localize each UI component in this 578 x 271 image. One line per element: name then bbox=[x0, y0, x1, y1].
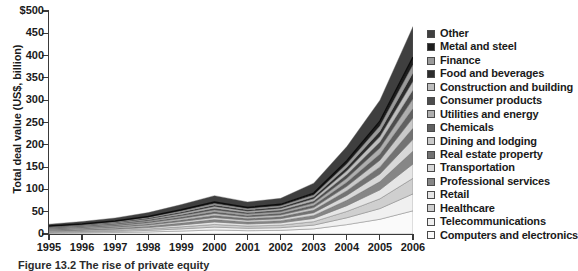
legend-swatch-icon bbox=[427, 110, 435, 118]
legend-item-label: Healthcare bbox=[440, 202, 495, 215]
legend-swatch-icon bbox=[427, 191, 435, 199]
x-tick-mark bbox=[313, 234, 314, 240]
legend-item[interactable]: Dining and lodging bbox=[427, 135, 577, 148]
legend-swatch-icon bbox=[427, 97, 435, 105]
x-tick-mark bbox=[148, 234, 149, 240]
legend-item-label: Telecommunications bbox=[440, 215, 546, 228]
y-tick-label: 50 bbox=[0, 205, 44, 217]
legend-item-label: Transportation bbox=[440, 161, 515, 174]
x-tick-mark bbox=[280, 234, 281, 240]
legend-item-label: Construction and building bbox=[440, 81, 573, 94]
legend-item[interactable]: Retail bbox=[427, 188, 577, 201]
legend-item-label: Finance bbox=[440, 54, 481, 67]
legend-item-label: Metal and steel bbox=[440, 40, 517, 53]
legend-item[interactable]: Metal and steel bbox=[427, 40, 577, 53]
y-tick-label: 0 bbox=[0, 227, 44, 239]
legend-item-label: Real estate property bbox=[440, 148, 543, 161]
legend-item-label: Computers and electronics bbox=[440, 229, 578, 242]
x-tick-label: 2006 bbox=[391, 241, 435, 253]
legend-item[interactable]: Real estate property bbox=[427, 148, 577, 161]
legend-item[interactable]: Other bbox=[427, 27, 577, 40]
legend-item-label: Utilities and energy bbox=[440, 108, 538, 121]
legend-item[interactable]: Consumer products bbox=[427, 94, 577, 107]
legend-swatch-icon bbox=[427, 218, 435, 226]
x-tick-mark bbox=[181, 234, 182, 240]
legend-item[interactable]: Telecommunications bbox=[427, 215, 577, 228]
legend-swatch-icon bbox=[427, 70, 435, 78]
legend-item[interactable]: Computers and electronics bbox=[427, 229, 577, 242]
legend-swatch-icon bbox=[427, 204, 435, 212]
legend-item[interactable]: Professional services bbox=[427, 175, 577, 188]
x-tick-mark bbox=[379, 234, 380, 240]
legend-item-label: Retail bbox=[440, 188, 469, 201]
y-tick-label: 300 bbox=[0, 93, 44, 105]
legend-item[interactable]: Utilities and energy bbox=[427, 108, 577, 121]
x-tick-mark bbox=[214, 234, 215, 240]
plot-area bbox=[49, 11, 413, 234]
legend-item[interactable]: Finance bbox=[427, 54, 577, 67]
legend-swatch-icon bbox=[427, 83, 435, 91]
y-tick-label: 100 bbox=[0, 182, 44, 194]
legend-swatch-icon bbox=[427, 30, 435, 38]
y-tick-label: 350 bbox=[0, 71, 44, 83]
x-tick-mark bbox=[81, 234, 82, 240]
legend-swatch-icon bbox=[427, 231, 435, 239]
y-tick-label: 450 bbox=[0, 26, 44, 38]
legend-item[interactable]: Food and beverages bbox=[427, 67, 577, 80]
legend-item-label: Consumer products bbox=[440, 94, 542, 107]
y-tick-label: $500 bbox=[0, 4, 44, 16]
y-tick-label: 200 bbox=[0, 138, 44, 150]
legend-item-label: Chemicals bbox=[440, 121, 494, 134]
legend-item-label: Dining and lodging bbox=[440, 135, 537, 148]
stacked-area-series bbox=[49, 11, 413, 234]
y-tick-label: 400 bbox=[0, 49, 44, 61]
legend-swatch-icon bbox=[427, 43, 435, 51]
x-tick-mark bbox=[48, 234, 49, 240]
legend: OtherMetal and steelFinanceFood and beve… bbox=[427, 27, 577, 242]
legend-swatch-icon bbox=[427, 137, 435, 145]
legend-item-label: Other bbox=[440, 27, 469, 40]
y-tick-label: 150 bbox=[0, 160, 44, 172]
legend-swatch-icon bbox=[427, 57, 435, 65]
legend-item-label: Food and beverages bbox=[440, 67, 544, 80]
legend-item-label: Professional services bbox=[440, 175, 550, 188]
legend-swatch-icon bbox=[427, 151, 435, 159]
legend-item[interactable]: Transportation bbox=[427, 161, 577, 174]
legend-item[interactable]: Healthcare bbox=[427, 202, 577, 215]
y-tick-label: 250 bbox=[0, 116, 44, 128]
legend-item[interactable]: Chemicals bbox=[427, 121, 577, 134]
x-tick-mark bbox=[247, 234, 248, 240]
legend-item[interactable]: Construction and building bbox=[427, 81, 577, 94]
legend-swatch-icon bbox=[427, 178, 435, 186]
legend-swatch-icon bbox=[427, 164, 435, 172]
legend-swatch-icon bbox=[427, 124, 435, 132]
x-tick-mark bbox=[412, 234, 413, 240]
x-tick-mark bbox=[346, 234, 347, 240]
x-tick-mark bbox=[115, 234, 116, 240]
figure-caption: Figure 13.2 The rise of private equity bbox=[18, 259, 209, 271]
